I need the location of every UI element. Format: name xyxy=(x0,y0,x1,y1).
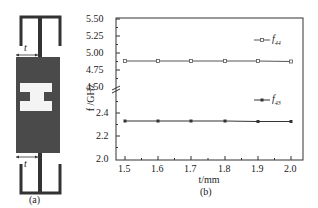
panel-b-label: (b) xyxy=(200,186,212,197)
legend-f44-label: f44 xyxy=(272,33,281,46)
y-tick-label: 5.50 xyxy=(86,13,104,24)
x-tick-label: 1.7 xyxy=(184,163,197,174)
legend-f43-label: f43 xyxy=(272,93,281,106)
y-tick-label: 5.25 xyxy=(86,30,104,41)
y-tick-label: 2.4 xyxy=(96,107,109,118)
y-tick-label: 2.2 xyxy=(96,130,109,141)
legend-f44-symbol xyxy=(254,39,270,42)
y-tick-label: 5.00 xyxy=(86,47,104,58)
series-f44 xyxy=(124,60,293,64)
frequency-chart xyxy=(0,0,318,208)
y-tick-label: 2.0 xyxy=(96,153,109,164)
x-tick-label: 1.9 xyxy=(251,163,264,174)
x-tick-label: 1.8 xyxy=(218,163,231,174)
x-tick-label: 2.0 xyxy=(284,163,297,174)
y-axis-label: f /GHz xyxy=(85,68,96,128)
y-axis-label-text: f /GHz xyxy=(85,84,96,112)
legend-f43-symbol xyxy=(254,99,270,102)
legend-f44-sub: 44 xyxy=(275,40,281,46)
x-tick-label: 1.5 xyxy=(118,163,131,174)
x-axis-label: t/mm xyxy=(185,174,233,185)
x-tick-label: 1.6 xyxy=(151,163,164,174)
legend-f43-sub: 43 xyxy=(275,100,281,106)
series-f43 xyxy=(124,120,293,124)
